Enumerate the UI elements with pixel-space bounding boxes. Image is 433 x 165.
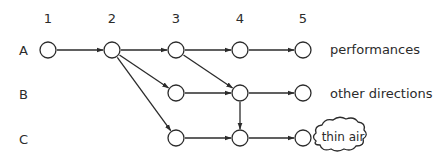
- column-label-3: 3: [172, 12, 180, 25]
- row-label-a: A: [19, 44, 28, 57]
- row-label-c: C: [19, 133, 28, 146]
- node-a2: [104, 42, 120, 58]
- nodes: [40, 42, 311, 146]
- node-b4: [232, 85, 248, 101]
- edge-a2-b3: [119, 55, 168, 88]
- column-label-1: 1: [44, 12, 52, 25]
- outcome-thin-air: thin air: [322, 130, 365, 144]
- node-a5: [295, 42, 311, 58]
- column-label-2: 2: [108, 12, 116, 25]
- node-a4: [232, 42, 248, 58]
- node-a3: [168, 42, 184, 58]
- node-b5: [295, 85, 311, 101]
- outcome-performances: performances: [330, 43, 420, 56]
- outcome-other-directions: other directions: [330, 87, 433, 100]
- node-a1: [40, 42, 56, 58]
- node-c4: [232, 130, 248, 146]
- column-label-4: 4: [236, 12, 244, 25]
- node-b3: [168, 85, 184, 101]
- edge-a2-c3: [117, 57, 170, 130]
- column-label-5: 5: [299, 12, 307, 25]
- node-c3: [168, 130, 184, 146]
- row-label-b: B: [19, 88, 28, 101]
- node-c5: [295, 130, 311, 146]
- edge-a3-b4: [183, 55, 232, 88]
